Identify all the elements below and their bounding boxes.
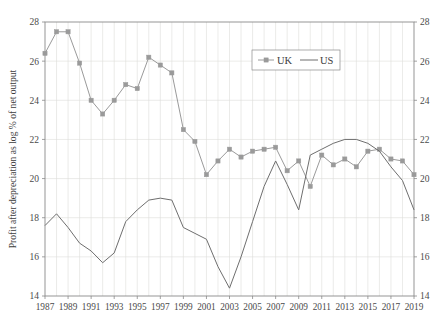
x-tick-label: 2013 <box>336 302 355 312</box>
data-point-marker-uk <box>343 157 347 161</box>
x-tick-label: 1995 <box>128 302 147 312</box>
y-tick-label-right: 24 <box>420 96 430 106</box>
data-point-marker-uk <box>331 163 335 167</box>
legend-swatch-uk-marker <box>264 58 268 62</box>
data-point-marker-uk <box>101 112 105 116</box>
y-axis-label: Profit after depreciation as log % of ne… <box>7 69 18 248</box>
chart-figure: 1416182022242628 1416182022242628 198719… <box>0 0 448 331</box>
data-point-marker-uk <box>54 30 58 34</box>
x-tick-label: 2017 <box>382 302 401 312</box>
data-point-marker-uk <box>262 147 266 151</box>
data-point-marker-uk <box>193 139 197 143</box>
data-point-marker-uk <box>124 83 128 87</box>
legend-label-us: US <box>320 55 334 66</box>
x-tick-label: 2019 <box>405 302 424 312</box>
chart-legend: UKUS <box>252 50 340 70</box>
y-tick-label-right: 20 <box>420 174 430 184</box>
data-point-marker-uk <box>158 63 162 67</box>
y-tick-label-right: 28 <box>420 17 430 27</box>
y-axis-tick-labels-left: 1416182022242628 <box>30 17 40 301</box>
y-tick-label-left: 26 <box>30 57 40 67</box>
y-tick-label-right: 18 <box>420 213 430 223</box>
data-point-marker-uk <box>216 159 220 163</box>
y-tick-label-left: 16 <box>30 252 40 262</box>
data-point-marker-uk <box>227 147 231 151</box>
data-point-marker-uk <box>400 159 404 163</box>
data-point-marker-uk <box>66 30 70 34</box>
data-point-marker-uk <box>112 98 116 102</box>
data-point-marker-uk <box>308 184 312 188</box>
x-tick-label: 2007 <box>266 302 285 312</box>
data-point-marker-uk <box>250 149 254 153</box>
x-tick-label: 1987 <box>36 302 55 312</box>
x-tick-label: 2009 <box>289 302 308 312</box>
x-tick-label: 1997 <box>151 302 170 312</box>
x-tick-label: 1999 <box>174 302 193 312</box>
y-tick-label-left: 24 <box>30 96 40 106</box>
y-tick-label-left: 14 <box>30 291 40 301</box>
profit-after-depreciation-line-chart: 1416182022242628 1416182022242628 198719… <box>0 0 448 331</box>
x-tick-label: 2003 <box>220 302 239 312</box>
data-point-marker-uk <box>412 173 416 177</box>
y-tick-label-right: 14 <box>420 291 430 301</box>
x-tick-label: 2011 <box>313 302 332 312</box>
x-tick-label: 1989 <box>59 302 78 312</box>
y-axis-tick-labels-right: 1416182022242628 <box>420 17 430 301</box>
data-point-marker-uk <box>297 159 301 163</box>
data-point-marker-uk <box>320 153 324 157</box>
data-point-marker-uk <box>43 51 47 55</box>
x-tick-label: 2005 <box>243 302 262 312</box>
x-tick-label: 1993 <box>105 302 124 312</box>
y-tick-label-left: 22 <box>30 135 40 145</box>
gridlines <box>45 22 414 296</box>
data-point-marker-uk <box>274 145 278 149</box>
data-point-marker-uk <box>170 71 174 75</box>
data-point-marker-uk <box>366 149 370 153</box>
x-tick-label: 2015 <box>359 302 378 312</box>
y-tick-label-left: 20 <box>30 174 40 184</box>
y-tick-label-right: 22 <box>420 135 430 145</box>
legend-label-uk: UK <box>277 55 293 66</box>
data-point-marker-uk <box>89 98 93 102</box>
x-tick-label: 1991 <box>82 302 101 312</box>
data-point-marker-uk <box>77 61 81 65</box>
x-axis-tick-labels: 1987198919911993199519971999200120032005… <box>36 302 424 312</box>
data-point-marker-uk <box>285 169 289 173</box>
y-tick-label-left: 18 <box>30 213 40 223</box>
data-point-marker-uk <box>354 165 358 169</box>
data-point-marker-uk <box>239 155 243 159</box>
x-tick-label: 2001 <box>197 302 216 312</box>
y-tick-label-left: 28 <box>30 17 40 27</box>
y-tick-label-right: 26 <box>420 57 430 67</box>
data-point-marker-uk <box>389 157 393 161</box>
data-point-marker-uk <box>135 86 139 90</box>
data-point-marker-uk <box>204 173 208 177</box>
data-point-marker-uk <box>147 55 151 59</box>
y-tick-label-right: 16 <box>420 252 430 262</box>
data-point-marker-uk <box>181 128 185 132</box>
